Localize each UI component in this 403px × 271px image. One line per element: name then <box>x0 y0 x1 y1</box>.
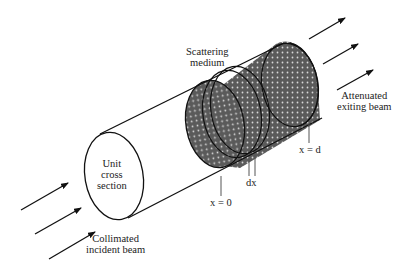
label-dx: dx <box>246 177 257 188</box>
label-x-d: x = d <box>299 144 321 155</box>
exiting-beam-arrows <box>309 18 373 90</box>
label-scattering-medium: Scattering medium <box>186 46 229 68</box>
label-attenuated-exiting-beam: Attenuated exiting beam <box>337 90 392 112</box>
beam-attenuation-diagram: Scattering medium Attenuated exiting bea… <box>0 0 403 271</box>
incident-beam-arrows <box>21 183 95 259</box>
label-collimated-incident-beam: Collimated incident beam <box>86 233 145 255</box>
label-unit-cross-section: Unit cross section <box>97 158 127 191</box>
label-x-zero: x = 0 <box>210 197 232 208</box>
diagram-graphic <box>0 0 403 271</box>
